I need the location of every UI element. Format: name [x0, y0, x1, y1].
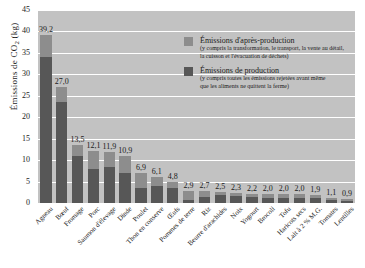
- bar-value-label: 1,1: [326, 188, 336, 197]
- bar-segment-production: [40, 57, 51, 203]
- bar-brocoli[interactable]: 2,0: [262, 194, 273, 203]
- bar-segment-production: [215, 195, 226, 203]
- bar-segment-post-production: [40, 35, 51, 57]
- bar-b-uf[interactable]: 27,0: [56, 87, 67, 203]
- y-tick-label-35: 35: [22, 49, 30, 57]
- bar-value-label: 27,0: [55, 77, 69, 86]
- bar-segment-production: [246, 197, 257, 203]
- bar-lait-2-m-g[interactable]: 1,9: [310, 195, 321, 203]
- bar-segment-production: [230, 196, 241, 203]
- bar-saumon-d-levage[interactable]: 11,9: [104, 152, 115, 203]
- bar-tofu[interactable]: 2,0: [278, 194, 289, 203]
- legend-detail-production-line2: que les aliments ne quittent la ferme): [200, 83, 365, 91]
- legend-label-post-production: Émissions d'après-production: [200, 36, 365, 45]
- bar-riz[interactable]: 2,7: [199, 191, 210, 203]
- emissions-bar-chart: Émissions de CO2 (kg) 051015202530354045…: [0, 0, 365, 268]
- bar-segment-production: [294, 198, 305, 203]
- bar-beurre-d-arachides[interactable]: 2,5: [215, 192, 226, 203]
- y-tick-label-15: 15: [22, 135, 30, 143]
- bar-segment-production: [199, 197, 210, 203]
- bar-value-label: 4,8: [168, 172, 178, 181]
- legend-label-production: Émissions de production: [200, 66, 365, 75]
- bar-segment-production: [72, 156, 83, 203]
- bar-value-label: 2,0: [279, 184, 289, 193]
- bar-agneau[interactable]: 39,2: [40, 35, 51, 203]
- legend-item-production: Émissions de production (y compris toute…: [184, 66, 365, 90]
- bar-segment-post-production: [88, 151, 99, 169]
- bar-ufs[interactable]: 4,8: [167, 182, 178, 203]
- y-tick-label-0: 0: [26, 199, 30, 207]
- bar-value-label: 1,9: [310, 185, 320, 194]
- bar-thon-en-conserve[interactable]: 6,1: [151, 177, 162, 203]
- legend-swatch-post-production-icon: [184, 37, 193, 46]
- bar-segment-post-production: [119, 156, 130, 172]
- bar-segment-production: [341, 201, 352, 203]
- bar-dinde[interactable]: 10,9: [119, 156, 130, 203]
- x-axis-labels: AgneauBœufFromagePorcSaumon d'élevageDin…: [38, 205, 355, 267]
- y-tick-label-10: 10: [22, 156, 30, 164]
- y-tick-label-40: 40: [22, 27, 30, 35]
- plot-area: 39,227,013,512,111,910,96,96,14,82,92,72…: [38, 10, 355, 203]
- y-tick-label-25: 25: [22, 92, 30, 100]
- bar-value-label: 2,9: [184, 181, 194, 190]
- bar-segment-production: [104, 167, 115, 203]
- bar-yogourt[interactable]: 2,2: [246, 194, 257, 203]
- bar-value-label: 39,2: [39, 25, 53, 34]
- bar-segment-post-production: [56, 87, 67, 102]
- bar-noix[interactable]: 2,3: [230, 193, 241, 203]
- y-axis-ticks: 051015202530354045: [0, 10, 34, 203]
- bar-value-label: 2,7: [199, 181, 209, 190]
- bar-value-label: 12,1: [86, 141, 100, 150]
- y-tick-label-20: 20: [22, 113, 30, 121]
- bar-fromage[interactable]: 13,5: [72, 145, 83, 203]
- bar-haricots-secs[interactable]: 2,0: [294, 194, 305, 203]
- gridline-0: [38, 203, 355, 204]
- bar-value-label: 13,5: [71, 135, 85, 144]
- legend: Émissions d'après-production (y compris …: [184, 36, 365, 96]
- bar-segment-post-production: [183, 191, 194, 200]
- bar-value-label: 10,9: [118, 146, 132, 155]
- bar-pommes-de-terre[interactable]: 2,9: [183, 191, 194, 203]
- bar-value-label: 2,3: [231, 183, 241, 192]
- bar-value-label: 2,0: [295, 184, 305, 193]
- legend-swatch-production-icon: [184, 67, 193, 76]
- bar-segment-production: [167, 188, 178, 203]
- bar-poulet[interactable]: 6,9: [135, 173, 146, 203]
- bar-segment-production: [119, 173, 130, 203]
- bar-value-label: 2,2: [247, 184, 257, 193]
- bar-tomates[interactable]: 1,1: [326, 198, 337, 203]
- bar-segment-post-production: [151, 177, 162, 186]
- bar-value-label: 2,0: [263, 184, 273, 193]
- bar-value-label: 2,5: [215, 182, 225, 191]
- y-tick-label-30: 30: [22, 70, 30, 78]
- bar-segment-production: [326, 200, 337, 203]
- x-axis-label-agneau: Agneau: [33, 205, 54, 226]
- bar-segment-production: [151, 186, 162, 203]
- bar-value-label: 0,9: [342, 189, 352, 198]
- bar-porc[interactable]: 12,1: [88, 151, 99, 203]
- bar-segment-production: [88, 169, 99, 203]
- bar-segment-production: [310, 198, 321, 203]
- bar-segment-production: [135, 188, 146, 203]
- bar-segment-post-production: [104, 152, 115, 167]
- bar-segment-production: [278, 198, 289, 203]
- bar-value-label: 6,1: [152, 167, 162, 176]
- legend-detail-post-production-line1: (y compris la transformation, le transpo…: [200, 45, 365, 53]
- bar-lentilles[interactable]: 0,9: [341, 199, 352, 203]
- legend-detail-post-production-line2: la cuisson et l'évacuation de déchets): [200, 53, 365, 61]
- bar-segment-production: [262, 198, 273, 203]
- legend-item-post-production: Émissions d'après-production (y compris …: [184, 36, 365, 60]
- bar-segment-post-production: [72, 145, 83, 156]
- y-tick-label-5: 5: [26, 178, 30, 186]
- y-tick-label-45: 45: [22, 6, 30, 14]
- bar-value-label: 11,9: [102, 142, 116, 151]
- bar-value-label: 6,9: [136, 163, 146, 172]
- bar-segment-production: [56, 102, 67, 203]
- bar-segment-post-production: [135, 173, 146, 188]
- legend-detail-production-line1: (y compris toutes les émissions rejetées…: [200, 75, 365, 83]
- x-axis-label-dinde: Dinde: [116, 205, 134, 223]
- bar-segment-production: [183, 200, 194, 203]
